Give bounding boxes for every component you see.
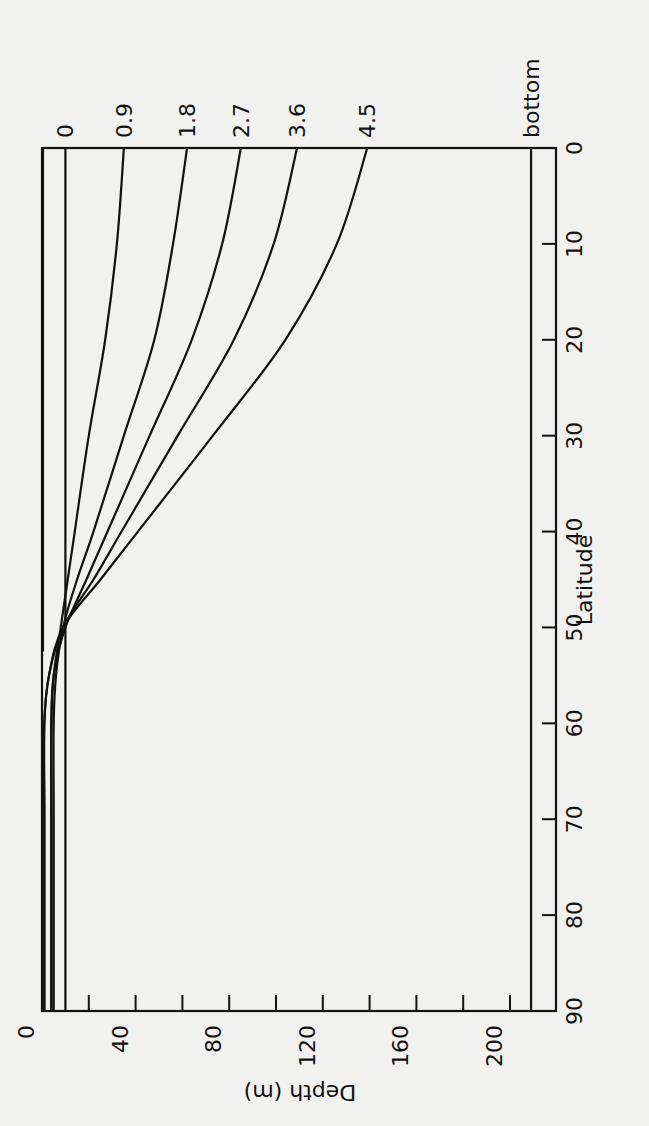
depth-tick-label: 200	[482, 1025, 507, 1067]
series-label-1-8: 1.8	[175, 103, 200, 138]
series-label-bottom: bottom	[519, 58, 544, 138]
depth-axis: 04080120160200	[14, 995, 510, 1067]
latitude-tick-label: 90	[562, 997, 587, 1025]
latitude-tick-label: 0	[562, 141, 587, 155]
series-curves	[43, 148, 531, 1011]
series-curve-2-7	[51, 148, 241, 1011]
latitude-tick-label: 80	[562, 901, 587, 929]
series-label-3-6: 3.6	[285, 103, 310, 138]
depth-latitude-chart: 00.91.82.73.64.5bottom 04080120160200 01…	[0, 0, 649, 1126]
latitude-tick-label: 70	[562, 805, 587, 833]
series-curve-1-8	[54, 148, 188, 1011]
series-label-0: 0	[53, 124, 78, 138]
latitude-tick-label: 60	[562, 709, 587, 737]
depth-tick-label: 80	[201, 1025, 226, 1053]
series-label-4-5: 4.5	[355, 103, 380, 138]
series-label-0-9: 0.9	[112, 103, 137, 138]
plot-frame	[42, 148, 556, 1011]
series-curve-3-6	[44, 148, 297, 1011]
latitude-tick-label: 30	[562, 422, 587, 450]
series-labels: 00.91.82.73.64.5bottom	[53, 58, 544, 138]
series-label-2-7: 2.7	[229, 103, 254, 138]
depth-tick-label: 0	[14, 1025, 39, 1039]
latitude-tick-label: 10	[562, 230, 587, 258]
depth-tick-label: 160	[388, 1025, 413, 1067]
latitude-axis-label: Latitude	[572, 535, 597, 626]
depth-axis-label: Depth (m)	[244, 1080, 357, 1105]
depth-tick-label: 120	[295, 1025, 320, 1067]
latitude-tick-label: 20	[562, 326, 587, 354]
depth-tick-label: 40	[108, 1025, 133, 1053]
